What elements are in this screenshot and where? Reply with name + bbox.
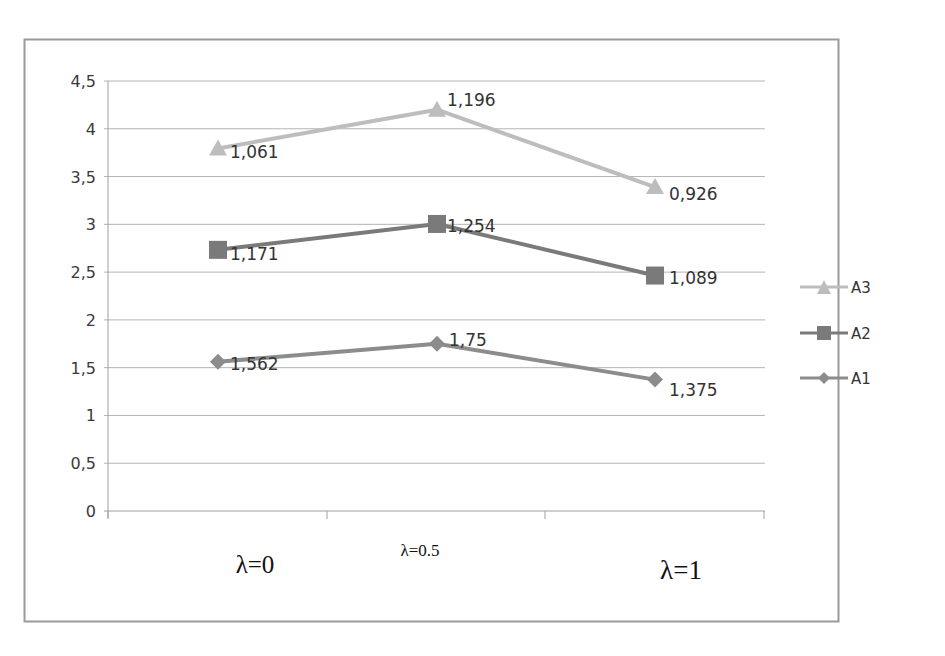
y-tick-label: 4,5 [71, 72, 96, 91]
data-label: 1,562 [230, 354, 279, 374]
data-label: 1,254 [447, 216, 496, 236]
y-tick-label: 3,5 [71, 168, 96, 187]
data-label: 1,171 [230, 244, 279, 264]
y-tick-label: 3 [86, 215, 96, 234]
y-tick-label: 1 [86, 406, 96, 425]
chart: 00,511,522,533,544,5 1,5621,751,3751,171… [0, 0, 945, 656]
svg-text:A3: A3 [851, 279, 871, 297]
y-tick-label: 2 [86, 311, 96, 330]
svg-text:A1: A1 [851, 370, 871, 388]
x-category-label: λ=0 [236, 551, 275, 578]
y-tick-label: 0,5 [71, 454, 96, 473]
data-label: 1,061 [230, 142, 279, 162]
x-category-label: λ=1 [660, 555, 702, 585]
data-label: 0,926 [669, 184, 718, 204]
chart-area-border [25, 40, 839, 622]
y-tick-label: 0 [86, 502, 96, 521]
y-tick-label: 4 [86, 120, 96, 139]
x-category-label: λ=0.5 [400, 541, 439, 560]
svg-text:A2: A2 [851, 325, 871, 343]
data-label: 1,75 [449, 330, 487, 350]
data-label: 1,375 [669, 380, 718, 400]
data-label: 1,196 [447, 90, 496, 110]
y-tick-label: 1,5 [71, 359, 96, 378]
square-marker-icon [428, 215, 446, 233]
square-marker-icon [817, 326, 831, 340]
square-marker-icon [209, 241, 227, 259]
y-tick-label: 2,5 [71, 263, 96, 282]
square-marker-icon [646, 267, 664, 285]
data-label: 1,089 [669, 268, 718, 288]
